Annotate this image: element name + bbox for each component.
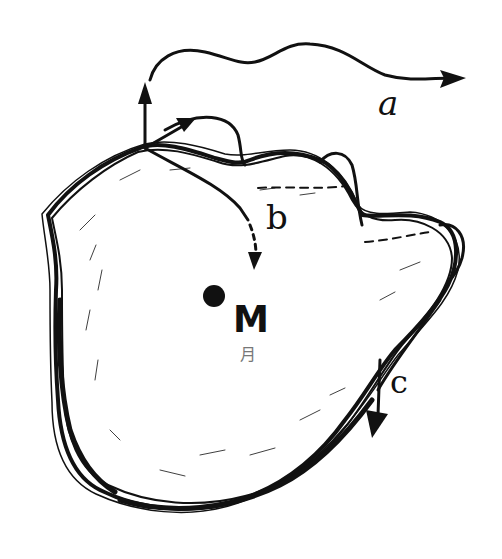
diagram-canvas: [0, 0, 502, 559]
trajectory-b: [145, 118, 262, 270]
label-center-caption: 月: [240, 347, 256, 363]
arrowhead-a-right: [440, 70, 466, 88]
arrowhead-b: [248, 252, 262, 270]
trajectory-a: [138, 44, 466, 148]
label-a: a: [378, 86, 398, 120]
label-c: c: [390, 366, 408, 398]
center-point-icon: [203, 285, 225, 307]
label-center-m: M: [233, 300, 269, 338]
arrowhead-c: [366, 410, 388, 438]
arrowhead-a-up: [138, 82, 152, 104]
label-b: b: [266, 200, 288, 234]
